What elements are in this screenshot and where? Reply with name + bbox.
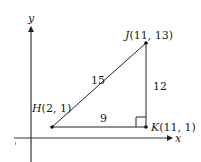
right-angle-marker	[136, 117, 146, 127]
label-K: K(11, 1)	[150, 121, 196, 134]
y-axis-label: y	[27, 12, 35, 25]
point-H	[50, 125, 54, 129]
label-J: J(11, 13)	[123, 29, 173, 42]
length-JK: 12	[153, 80, 167, 93]
origin-mark	[15, 142, 16, 145]
coordinate-diagram: y x J(11, 13) H(2, 1) K(11, 1) 15 12 9	[0, 0, 201, 162]
length-HK: 9	[100, 112, 107, 125]
length-HJ: 15	[91, 74, 105, 87]
label-H: H(2, 1)	[31, 102, 71, 115]
point-K	[144, 125, 148, 129]
